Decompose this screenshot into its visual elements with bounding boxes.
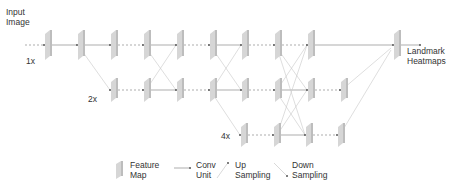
legend-up-sampling: Up Sampling — [235, 160, 270, 180]
feature-map — [392, 30, 401, 60]
scale-2x-label: 2x — [88, 94, 97, 104]
legend-conv-unit: Conv Unit — [196, 160, 216, 180]
feature-map — [76, 30, 85, 60]
feature-map — [336, 123, 345, 147]
feature-map — [304, 123, 313, 147]
conv-unit-legend-icon — [173, 165, 193, 171]
down-sampling-legend-icon — [272, 160, 290, 180]
feature-map — [109, 78, 118, 102]
legend-down-sampling: Down Sampling — [292, 160, 327, 180]
feature-map — [273, 30, 282, 60]
scale-1x-label: 1x — [26, 56, 35, 66]
feature-map — [240, 30, 249, 60]
feature-map — [240, 78, 249, 102]
feature-map — [306, 30, 315, 60]
feature-map — [43, 30, 52, 60]
network-diagram — [0, 0, 462, 189]
scale-4x-label: 4x — [221, 131, 230, 141]
feature-map — [272, 123, 281, 147]
landmark-heatmaps-label: Landmark Heatmaps — [407, 46, 446, 66]
feature-map — [175, 30, 184, 60]
feature-map — [142, 78, 151, 102]
feature-map — [175, 78, 184, 102]
feature-map — [208, 30, 217, 60]
up-sampling-legend-icon — [215, 160, 231, 180]
feature-map — [239, 123, 248, 147]
feature-maps — [43, 30, 401, 147]
legend-feature-map: Feature Map — [130, 160, 159, 180]
feature-map — [142, 30, 151, 60]
feature-map — [339, 78, 348, 102]
feature-map-legend-icon — [114, 160, 124, 180]
feature-map — [109, 30, 118, 60]
connections — [25, 45, 420, 135]
feature-map — [306, 78, 315, 102]
input-image-label: Input Image — [6, 7, 30, 27]
